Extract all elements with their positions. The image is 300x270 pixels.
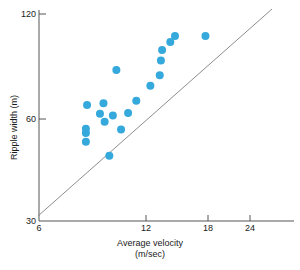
data-point bbox=[83, 101, 91, 109]
data-point bbox=[158, 46, 166, 54]
y-tick-label-120: 120 bbox=[14, 10, 36, 19]
x-tick-label-6: 6 bbox=[30, 224, 48, 233]
data-point bbox=[156, 71, 164, 79]
data-point bbox=[101, 118, 109, 126]
data-point-group bbox=[82, 32, 210, 160]
data-point bbox=[157, 56, 165, 64]
x-tick-label-12: 12 bbox=[137, 224, 155, 233]
x-axis-ticks bbox=[146, 215, 250, 221]
data-point bbox=[201, 32, 209, 40]
x-axis-title-line2: (m/sec) bbox=[0, 249, 300, 260]
ripple-width-scatter-chart: 120 60 30 6 12 18 24 Ripple width (m) Av… bbox=[0, 0, 300, 270]
y-axis-ticks bbox=[39, 14, 46, 119]
data-point bbox=[82, 138, 90, 146]
x-tick-label-18: 18 bbox=[199, 224, 217, 233]
data-point bbox=[99, 99, 107, 107]
data-point bbox=[96, 110, 104, 118]
data-point bbox=[109, 112, 117, 120]
x-tick-label-24: 24 bbox=[241, 224, 259, 233]
data-point bbox=[105, 152, 113, 160]
x-axis-title-line1: Average velocity bbox=[117, 238, 183, 248]
trend-line bbox=[38, 9, 272, 216]
data-point bbox=[117, 126, 125, 134]
y-axis-title: Ripple width (m) bbox=[10, 95, 19, 160]
data-point bbox=[146, 82, 154, 90]
data-point bbox=[124, 109, 132, 117]
data-point bbox=[132, 97, 140, 105]
data-point bbox=[82, 125, 90, 133]
data-point bbox=[112, 66, 120, 74]
data-point bbox=[171, 32, 179, 40]
x-axis-title: Average velocity (m/sec) bbox=[0, 238, 300, 260]
